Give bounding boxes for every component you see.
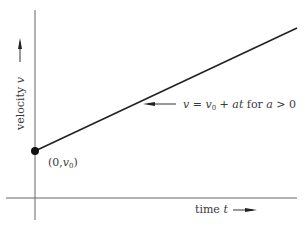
velocity-time-diagram: (0,v0) velocity v time t v = v0 + at for… <box>0 0 305 228</box>
y-axis-label: velocity v <box>14 76 27 131</box>
svg-text:velocity v: velocity v <box>14 76 27 131</box>
velocity-line <box>35 28 297 151</box>
equation-arrow-head <box>143 102 155 106</box>
initial-point-dot <box>31 147 39 155</box>
x-label-arrow-head <box>245 208 257 212</box>
x-axis-label: time t <box>195 203 228 216</box>
point-label: (0,v0) <box>48 156 78 170</box>
y-label-arrow-head <box>18 38 22 49</box>
equation-label: v = v0 + at for a > 0 <box>183 98 296 112</box>
